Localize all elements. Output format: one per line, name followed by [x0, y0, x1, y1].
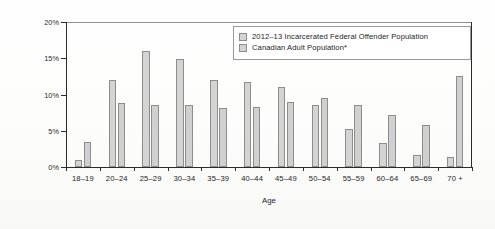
bar-canadian-adult — [354, 105, 362, 167]
bar-canadian-adult — [84, 142, 92, 167]
bar-chart-figure: Percentage of Incarcerated Federal Offen… — [0, 0, 495, 229]
bar-canadian-adult — [321, 98, 329, 167]
y-tick-mark — [61, 131, 66, 132]
bar-offender — [345, 129, 353, 167]
chart-legend: 2012–13 Incarcerated Federal Offender Po… — [233, 26, 471, 60]
y-tick-label: 10% — [44, 90, 59, 99]
legend-swatch-icon-offender — [239, 33, 247, 41]
x-tick-label: 20–24 — [106, 174, 128, 183]
x-tick-label: 55–59 — [343, 174, 365, 183]
x-tick-mark — [337, 167, 338, 171]
y-axis-line — [66, 22, 67, 168]
x-tick-label: 70 + — [447, 174, 463, 183]
bar-canadian-adult — [388, 115, 396, 167]
y-tick-label: 20% — [44, 18, 59, 27]
bar-offender — [379, 143, 387, 167]
bar-canadian-adult — [287, 102, 295, 167]
bar-canadian-adult — [253, 107, 261, 167]
x-tick-label: 45–49 — [275, 174, 297, 183]
legend-label-offender: 2012–13 Incarcerated Federal Offender Po… — [252, 32, 428, 41]
legend-entry-canadian-adult: Canadian Adult Population* — [239, 43, 465, 52]
x-tick-mark — [438, 167, 439, 171]
bar-offender — [312, 105, 320, 167]
x-tick-mark — [168, 167, 169, 171]
bar-offender — [447, 157, 455, 167]
bar-offender — [244, 82, 252, 167]
x-tick-label: 60–64 — [376, 174, 398, 183]
bar-offender — [278, 87, 286, 167]
legend-label-canadian-adult: Canadian Adult Population* — [252, 43, 347, 52]
bar-canadian-adult — [118, 103, 126, 167]
y-tick-label: 15% — [44, 54, 59, 63]
x-tick-mark — [134, 167, 135, 171]
bar-canadian-adult — [151, 105, 159, 167]
y-tick-mark — [61, 95, 66, 96]
x-tick-label: 40–44 — [241, 174, 263, 183]
x-tick-mark — [100, 167, 101, 171]
bar-offender — [109, 80, 117, 167]
plot-right-border — [471, 22, 472, 168]
bar-offender — [75, 160, 83, 167]
y-tick-mark — [61, 22, 66, 23]
x-tick-mark — [371, 167, 372, 171]
x-tick-label: 30–34 — [173, 174, 195, 183]
plot-top-border — [66, 22, 472, 23]
bar-canadian-adult — [456, 76, 464, 167]
x-tick-mark — [66, 167, 67, 171]
x-tick-label: 35–39 — [207, 174, 229, 183]
bar-canadian-adult — [219, 108, 227, 167]
bar-offender — [142, 51, 150, 167]
x-tick-mark — [472, 167, 473, 171]
bar-offender — [176, 59, 184, 167]
x-tick-label: 25–29 — [140, 174, 162, 183]
bar-offender — [413, 155, 421, 167]
x-tick-label: 50–54 — [309, 174, 331, 183]
x-tick-mark — [201, 167, 202, 171]
legend-entry-offender: 2012–13 Incarcerated Federal Offender Po… — [239, 32, 465, 41]
x-tick-mark — [269, 167, 270, 171]
x-tick-mark — [235, 167, 236, 171]
x-tick-mark — [404, 167, 405, 171]
bar-offender — [210, 80, 218, 167]
legend-swatch-icon-canadian-adult — [239, 44, 247, 52]
x-axis-title: Age — [66, 196, 472, 205]
bar-canadian-adult — [422, 125, 430, 167]
x-tick-mark — [303, 167, 304, 171]
x-tick-label: 65–69 — [410, 174, 432, 183]
y-tick-label: 0% — [48, 163, 59, 172]
x-tick-label: 18–19 — [72, 174, 94, 183]
y-tick-label: 5% — [48, 126, 59, 135]
bar-canadian-adult — [185, 105, 193, 167]
y-tick-mark — [61, 58, 66, 59]
